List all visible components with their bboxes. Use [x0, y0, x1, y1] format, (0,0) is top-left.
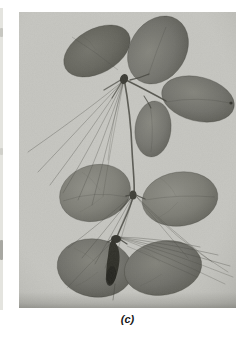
leaf-photo-canvas: [19, 12, 236, 308]
film-grain: [19, 12, 236, 308]
edge-smudge: [0, 28, 3, 37]
edge-smudge: [0, 148, 3, 155]
plant-photograph: [19, 12, 236, 308]
figure-panel: (c): [0, 0, 248, 338]
edge-smudge: [0, 240, 3, 260]
figure-caption: (c): [19, 312, 236, 326]
adjacent-photo-edge: [0, 8, 3, 310]
